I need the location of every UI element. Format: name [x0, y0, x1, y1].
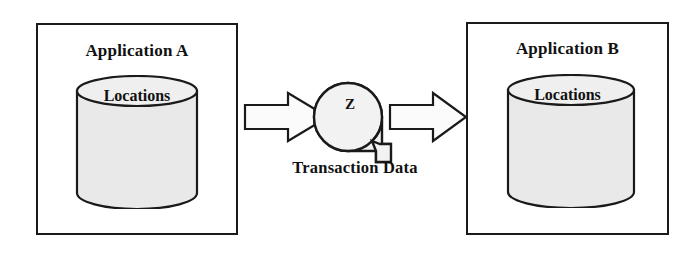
application-b-box: Application B Locations: [466, 22, 669, 235]
cylinder-body-a: [77, 91, 197, 209]
cylinder-top-a: [77, 76, 197, 106]
database-cylinder-a: [75, 75, 199, 209]
cylinder-body-b: [508, 90, 634, 208]
arrow-right-out-of-hub-icon: [390, 93, 466, 141]
transaction-data-caption: Transaction Data: [240, 158, 470, 178]
diagram-canvas: Application A Locations Z Transaction Da…: [0, 0, 694, 255]
application-a-box: Application A Locations: [36, 23, 238, 235]
cylinder-top-b: [508, 75, 634, 105]
application-a-title: Application A: [38, 41, 236, 61]
application-b-title: Application B: [468, 39, 667, 59]
database-cylinder-b: [506, 74, 636, 208]
